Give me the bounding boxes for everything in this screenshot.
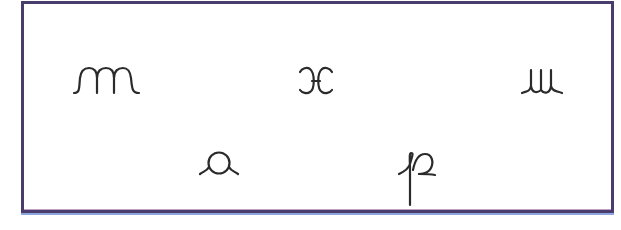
cursive-u-glyph (520, 68, 564, 96)
cursive-x-glyph (298, 66, 334, 96)
cursive-a-glyph (198, 150, 240, 178)
cursive-m-glyph (72, 66, 144, 96)
cursive-p-glyph (397, 150, 437, 208)
letter-card-frame (21, 1, 614, 213)
